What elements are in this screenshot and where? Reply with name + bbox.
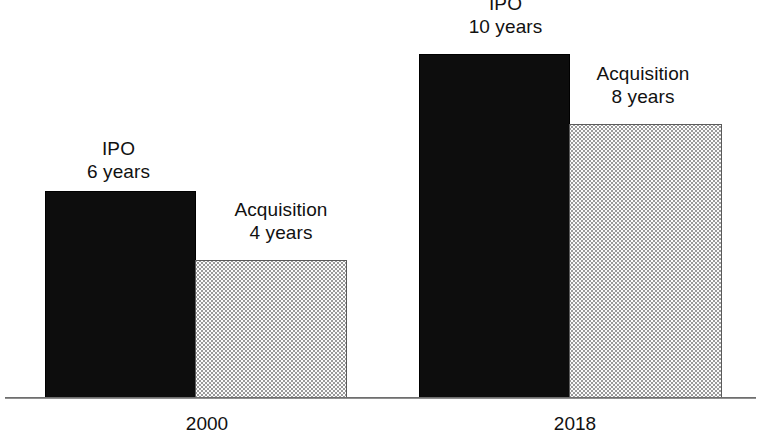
bar-label-2018-ipo-line2: 10 years xyxy=(445,15,566,38)
bar-label-2000-acquisition-line1: Acquisition xyxy=(211,198,351,221)
bar-label-2018-acquisition-line1: Acquisition xyxy=(573,62,713,85)
bar-label-2000-ipo-line2: 6 years xyxy=(58,160,179,183)
x-axis-tick-2000: 2000 xyxy=(157,413,257,435)
bar-2018-ipo xyxy=(419,54,570,398)
bar-label-2000-ipo: IPO 6 years xyxy=(58,137,179,183)
bar-label-2018-ipo: IPO 10 years xyxy=(445,0,566,38)
bar-label-2018-ipo-line1: IPO xyxy=(445,0,566,15)
x-axis-line xyxy=(5,397,756,399)
bar-label-2018-acquisition: Acquisition 8 years xyxy=(573,62,713,108)
bar-chart: IPO 6 years Acquisition 4 years IPO 10 y… xyxy=(0,0,760,447)
x-axis-tick-2018: 2018 xyxy=(525,413,625,435)
bar-2000-acquisition xyxy=(195,260,347,398)
bar-2018-acquisition xyxy=(569,124,722,398)
bar-2000-ipo xyxy=(45,191,196,398)
bar-label-2018-acquisition-line2: 8 years xyxy=(573,85,713,108)
plot-area: IPO 6 years Acquisition 4 years IPO 10 y… xyxy=(0,0,760,447)
bar-label-2000-acquisition: Acquisition 4 years xyxy=(211,198,351,244)
bar-label-2000-ipo-line1: IPO xyxy=(58,137,179,160)
bar-label-2000-acquisition-line2: 4 years xyxy=(211,221,351,244)
